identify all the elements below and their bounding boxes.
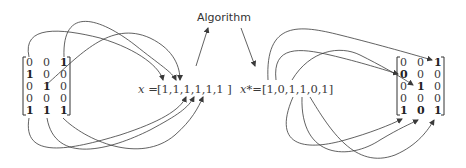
arrow-xstar-5-to-right-cell-4-2 xyxy=(310,97,434,158)
x-star-vector-value: [1,0,1,1,0,1] xyxy=(262,82,333,96)
x-vector: x = [1,1,1,1,1,1 ] xyxy=(138,82,232,96)
arrow-left-cell-4-2 xyxy=(63,97,203,149)
left-cell-4-2: 1 xyxy=(60,104,68,117)
arrow-left-cell-0-2 xyxy=(64,21,176,80)
diagram-canvas: Algorithm 0 0 1 1 0 0 0 1 0 0 0 0 1 1 1 … xyxy=(0,0,466,168)
right-cell-4-2: 1 xyxy=(434,104,442,117)
right-matrix: 0 0 1 0 0 0 0 1 0 0 0 0 1 0 1 xyxy=(397,56,444,117)
arrow-left-cell-4-0 xyxy=(28,97,186,148)
arrow-from-algorithm xyxy=(241,28,255,66)
left-cell-4-0: 1 xyxy=(26,104,34,117)
left-matrix: 0 0 1 1 0 0 0 1 0 0 0 0 1 1 1 xyxy=(23,56,70,117)
x-vector-value: [1,1,1,1,1,1 ] xyxy=(157,82,232,96)
right-cell-4-1: 0 xyxy=(417,104,425,117)
arrow-xstar-3-to-right-cell-4-0 xyxy=(286,97,402,145)
algorithm-label: Algorithm xyxy=(197,11,251,24)
arrow-to-algorithm xyxy=(196,28,208,66)
x-star-vector-label: x*= xyxy=(240,82,262,96)
x-star-vector: x*= [1,0,1,1,0,1] xyxy=(240,82,333,96)
diagram-svg: Algorithm 0 0 1 1 0 0 0 1 0 0 0 0 1 1 1 … xyxy=(0,0,466,168)
arrow-xstar-2-to-right-cell-2-1 xyxy=(292,50,413,85)
left-cell-4-1: 1 xyxy=(43,104,51,117)
right-cell-4-0: 1 xyxy=(400,104,408,117)
x-vector-label: x = xyxy=(138,82,158,96)
